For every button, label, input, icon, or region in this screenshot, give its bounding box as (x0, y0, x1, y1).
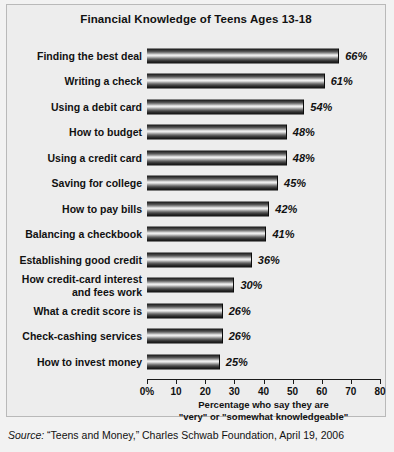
bar-category-label: How credit-card interest and fees work (0, 273, 142, 298)
x-axis-tick (205, 379, 206, 384)
bar (147, 303, 223, 318)
x-axis-tick (380, 379, 381, 384)
bar-category-label: How to budget (0, 126, 142, 139)
bar-category-label: How to pay bills (0, 203, 142, 216)
bar (147, 74, 325, 89)
x-axis-tick (264, 379, 265, 384)
bar-value-label: 54% (310, 101, 332, 113)
x-axis-tick-label: 60 (316, 386, 327, 397)
bar-row: How to budget48% (147, 120, 380, 146)
x-axis-tick-label: 0% (140, 386, 154, 397)
bar-value-label: 48% (293, 126, 315, 138)
bar-row: What a credit score is26% (147, 298, 380, 324)
x-axis-tick (322, 379, 323, 384)
bar (147, 278, 234, 293)
bar-row: Using a debit card54% (147, 94, 380, 120)
chart-panel: Financial Knowledge of Teens Ages 13-18 … (6, 4, 386, 417)
bar-value-label: 26% (229, 305, 251, 317)
bar-value-label: 26% (229, 330, 251, 342)
bar (147, 227, 266, 242)
bar (147, 125, 287, 140)
x-axis-tick-label: 50 (287, 386, 298, 397)
bar-row: Saving for college45% (147, 171, 380, 197)
x-axis-title: Percentage who say they are "very" or "s… (147, 399, 380, 422)
bar-value-label: 36% (258, 254, 280, 266)
bar-value-label: 66% (345, 50, 367, 62)
bar-row: How to invest money25% (147, 349, 380, 375)
bar-row: Establishing good credit36% (147, 247, 380, 273)
x-axis-tick-label: 20 (200, 386, 211, 397)
bar (147, 99, 304, 114)
bar-value-label: 41% (272, 228, 294, 240)
bar-category-label: Establishing good credit (0, 254, 142, 267)
bar-row: Balancing a checkbook41% (147, 222, 380, 248)
bar-category-label: What a credit score is (0, 305, 142, 318)
x-axis-tick (351, 379, 352, 384)
bar-value-label: 30% (240, 279, 262, 291)
bar-row: Writing a check61% (147, 69, 380, 95)
source-note: Source: “Teens and Money,” Charles Schwa… (8, 429, 344, 441)
bar-category-label: Saving for college (0, 177, 142, 190)
bar (147, 354, 220, 369)
bar-row: Using a credit card48% (147, 145, 380, 171)
x-axis-tick (293, 379, 294, 384)
bar-value-label: 25% (226, 356, 248, 368)
bar-value-label: 48% (293, 152, 315, 164)
bar (147, 329, 223, 344)
bar-value-label: 61% (331, 75, 353, 87)
bar-category-label: Using a debit card (0, 101, 142, 114)
x-axis-tick-label: 40 (258, 386, 269, 397)
x-axis-tick (147, 379, 148, 384)
bar-value-label: 45% (284, 177, 306, 189)
bar (147, 176, 278, 191)
bar-category-label: Writing a check (0, 75, 142, 88)
bar-row: How credit-card interest and fees work30… (147, 273, 380, 299)
bar-value-label: 42% (275, 203, 297, 215)
bar (147, 150, 287, 165)
x-axis-title-line-2: "very" or "somewhat knowledgeable" (147, 411, 380, 423)
x-axis-tick-label: 10 (171, 386, 182, 397)
bar (147, 252, 252, 267)
plot-area: Finding the best deal66%Writing a check6… (147, 43, 380, 379)
bar (147, 201, 269, 216)
x-axis-tick-label: 80 (374, 386, 385, 397)
bar-category-label: Check-cashing services (0, 330, 142, 343)
bar (147, 48, 339, 63)
source-label: Source: (8, 429, 44, 441)
chart-title: Financial Knowledge of Teens Ages 13-18 (7, 13, 385, 25)
bar-row: How to pay bills42% (147, 196, 380, 222)
x-axis-tick-label: 30 (229, 386, 240, 397)
bar-row: Finding the best deal66% (147, 43, 380, 69)
source-text: “Teens and Money,” Charles Schwab Founda… (44, 429, 344, 441)
bar-row: Check-cashing services26% (147, 324, 380, 350)
x-axis-tick-label: 70 (345, 386, 356, 397)
bar-category-label: How to invest money (0, 356, 142, 369)
bar-category-label: Using a credit card (0, 152, 142, 165)
bar-category-label: Balancing a checkbook (0, 228, 142, 241)
x-axis-tick (176, 379, 177, 384)
x-axis-title-line-1: Percentage who say they are (147, 399, 380, 411)
x-axis-tick (234, 379, 235, 384)
bar-category-label: Finding the best deal (0, 50, 142, 63)
